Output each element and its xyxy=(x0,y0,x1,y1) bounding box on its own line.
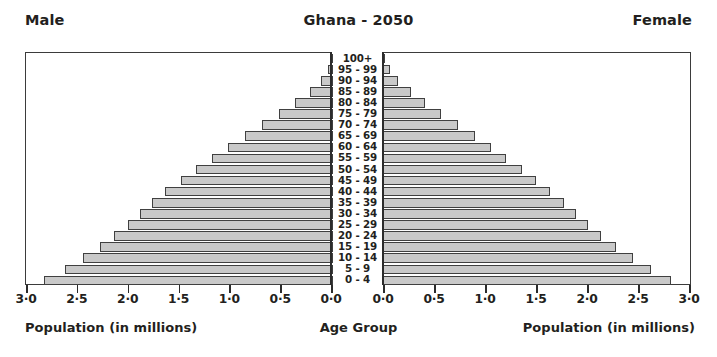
bar-female-40-44 xyxy=(383,187,550,197)
age-group-label: 40 - 44 xyxy=(332,186,383,196)
bar-female-75-79 xyxy=(383,109,441,119)
bar-female-80-84 xyxy=(383,98,425,108)
axis-tick-label: 0·0 xyxy=(363,292,403,306)
bar-female-10-14 xyxy=(383,253,633,263)
axis-tick-label: 3·0 xyxy=(6,292,46,306)
bar-female-0-4 xyxy=(383,276,671,286)
axis-tick-label: 0·0 xyxy=(311,292,351,306)
bar-male-70-74 xyxy=(262,120,333,130)
axis-tick-label: 3·0 xyxy=(669,292,709,306)
bar-male-20-24 xyxy=(114,231,333,241)
bar-male-0-4 xyxy=(44,276,333,286)
male-plot-area xyxy=(25,52,332,285)
bar-female-55-59 xyxy=(383,154,506,164)
bar-female-30-34 xyxy=(383,209,576,219)
axis-tick-label: 1·0 xyxy=(465,292,505,306)
axis-tick-label: 2·5 xyxy=(618,292,658,306)
bar-female-70-74 xyxy=(383,120,458,130)
bar-female-25-29 xyxy=(383,220,588,230)
bar-female-85-89 xyxy=(383,87,411,97)
age-group-label: 55 - 59 xyxy=(332,152,383,162)
age-group-label: 80 - 84 xyxy=(332,97,383,107)
axis-tick-label: 1·0 xyxy=(209,292,249,306)
age-group-label: 75 - 79 xyxy=(332,108,383,118)
age-group-label: 85 - 89 xyxy=(332,86,383,96)
bar-female-50-54 xyxy=(383,165,522,175)
bar-male-80-84 xyxy=(295,98,333,108)
axis-tick-label: 2·5 xyxy=(57,292,97,306)
bar-female-45-49 xyxy=(383,176,536,186)
bar-female-15-19 xyxy=(383,242,616,252)
bar-male-55-59 xyxy=(212,154,333,164)
axis-tick-label: 2·0 xyxy=(567,292,607,306)
bar-male-50-54 xyxy=(196,165,333,175)
female-plot-area xyxy=(383,52,691,285)
bar-male-5-9 xyxy=(65,265,333,275)
age-group-label: 20 - 24 xyxy=(332,230,383,240)
chart-header: Male Ghana - 2050 Female xyxy=(0,12,717,34)
age-group-label: 95 - 99 xyxy=(332,64,383,74)
age-group-label: 45 - 49 xyxy=(332,175,383,185)
bar-male-40-44 xyxy=(165,187,333,197)
age-group-label: 100+ xyxy=(332,53,383,63)
bar-male-30-34 xyxy=(140,209,333,219)
age-group-label: 10 - 14 xyxy=(332,252,383,262)
chart-title: Ghana - 2050 xyxy=(0,12,717,28)
bar-male-15-19 xyxy=(100,242,333,252)
axis-tick-label: 1·5 xyxy=(159,292,199,306)
bar-female-60-64 xyxy=(383,143,491,153)
bar-male-25-29 xyxy=(128,220,333,230)
bar-male-10-14 xyxy=(83,253,333,263)
bar-female-20-24 xyxy=(383,231,601,241)
male-bars-group xyxy=(26,53,333,286)
bar-male-45-49 xyxy=(181,176,334,186)
bar-female-90-94 xyxy=(383,76,398,86)
age-group-label: 60 - 64 xyxy=(332,141,383,151)
bar-male-75-79 xyxy=(279,109,333,119)
bar-male-65-69 xyxy=(245,131,333,141)
female-axis-caption: Population (in millions) xyxy=(523,320,695,335)
population-pyramid-figure: Male Ghana - 2050 Female 0 - 45 - 910 - … xyxy=(0,0,717,357)
age-group-label: 25 - 29 xyxy=(332,219,383,229)
age-group-label: 15 - 19 xyxy=(332,241,383,251)
axis-tick-label: 0·5 xyxy=(414,292,454,306)
age-group-label: 50 - 54 xyxy=(332,164,383,174)
age-group-label: 0 - 4 xyxy=(332,274,383,284)
female-bars-group xyxy=(383,53,691,286)
age-group-axis: 0 - 45 - 910 - 1415 - 1920 - 2425 - 2930… xyxy=(332,52,383,285)
bar-female-65-69 xyxy=(383,131,475,141)
axis-tick-label: 1·5 xyxy=(516,292,556,306)
bar-male-60-64 xyxy=(228,143,333,153)
axis-tick-label: 0·5 xyxy=(260,292,300,306)
female-side-label: Female xyxy=(633,12,692,28)
bar-female-35-39 xyxy=(383,198,564,208)
age-group-label: 90 - 94 xyxy=(332,75,383,85)
age-group-label: 70 - 74 xyxy=(332,119,383,129)
age-group-label: 35 - 39 xyxy=(332,197,383,207)
age-group-label: 30 - 34 xyxy=(332,208,383,218)
age-group-label: 5 - 9 xyxy=(332,263,383,273)
bar-male-35-39 xyxy=(152,198,333,208)
age-group-label: 65 - 69 xyxy=(332,130,383,140)
axis-tick-label: 2·0 xyxy=(108,292,148,306)
bar-female-5-9 xyxy=(383,265,651,275)
